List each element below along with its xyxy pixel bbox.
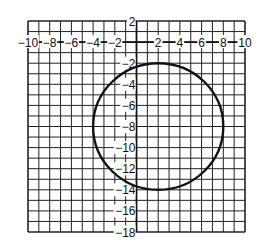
y-tick-label: 2	[129, 15, 136, 29]
x-tick-label: 4	[177, 36, 184, 50]
x-tick-label: −2	[108, 36, 122, 50]
x-tick-label: −6	[65, 36, 79, 50]
x-tick-label: 8	[220, 36, 227, 50]
x-tick-label: −8	[43, 36, 57, 50]
y-tick-label: −12	[115, 162, 136, 176]
coordinate-plane: −10−8−6−4−2246810 2−2−4−6−8−10−12−14−16−…	[0, 0, 260, 251]
x-tick-label: 6	[198, 36, 205, 50]
x-tick-label: 2	[155, 36, 162, 50]
y-tick-label: −10	[115, 141, 136, 155]
x-tick-label: −4	[86, 36, 100, 50]
y-tick-label: −16	[115, 204, 136, 218]
y-tick-label: −6	[122, 99, 136, 113]
y-tick-label: −8	[122, 120, 136, 134]
y-tick-label: −4	[122, 78, 136, 92]
x-tick-label: 10	[238, 36, 252, 50]
x-tick-label: −10	[18, 36, 39, 50]
y-tick-label: −18	[115, 226, 136, 240]
